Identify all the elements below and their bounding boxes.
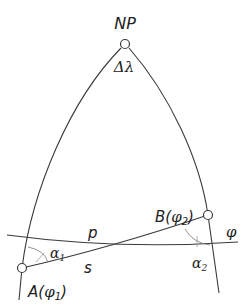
spherical-triangle-diagram: NP Δλ B(φ2) A(φ1) p s φ α1 α2 [0,0,250,306]
north-pole-node [121,40,130,49]
delta-lambda-label: Δλ [113,58,134,76]
alpha2-arc [185,229,210,245]
latitude-label: φ [226,223,237,241]
point-b-label: B(φ2) [155,208,194,227]
alpha1-tick [36,253,44,262]
north-pole-label: NP [114,14,136,33]
parallel-label: p [87,224,98,242]
point-a-label: A(φ1) [27,283,67,302]
point-b-node [204,211,213,220]
meridian-right [129,48,219,293]
point-a-node [18,264,27,273]
alpha1-label: α1 [50,245,65,263]
alpha2-label: α2 [192,255,207,273]
meridian-left [19,48,121,300]
geodesic-label: s [84,259,92,277]
